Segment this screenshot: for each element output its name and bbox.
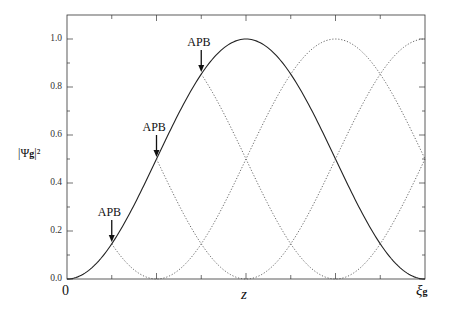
curves <box>67 39 425 279</box>
y-tick-label: 0.2 <box>22 225 62 235</box>
y-tick-label: 0.8 <box>22 81 62 91</box>
apb-label: APB <box>98 205 121 220</box>
apb-label: APB <box>143 120 166 135</box>
y-tick-label: 0.0 <box>22 273 62 283</box>
x-axis-zero-label: 0 <box>62 283 69 299</box>
curve-dotted-1 <box>112 39 425 279</box>
curve-dotted-3 <box>201 74 425 279</box>
x-axis-label: z <box>241 286 247 303</box>
y-tick-label: 1.0 <box>22 33 62 43</box>
y-tick-label: 0.6 <box>22 129 62 139</box>
plot-frame <box>67 15 425 279</box>
x-axis-end-label: ξg <box>416 282 427 299</box>
y-axis-label: |Ψg|² <box>18 146 40 161</box>
y-tick-label: 0.4 <box>22 177 62 187</box>
x-ticks <box>112 15 381 279</box>
apb-label: APB <box>187 35 210 50</box>
apb-arrows <box>109 50 205 242</box>
plot-area <box>0 0 450 318</box>
